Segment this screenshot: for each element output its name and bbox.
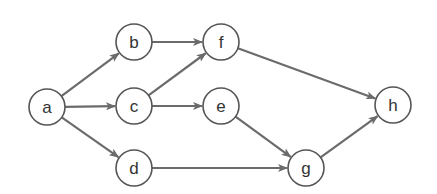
node-d: d [116,150,152,186]
node-c: c [116,88,152,124]
node-label: g [301,159,310,178]
edge-a-d [62,117,119,157]
node-b: b [116,24,152,60]
edge-e-g [236,117,291,157]
node-label: d [129,159,138,178]
node-a: a [29,89,65,125]
node-e: e [203,88,239,124]
edge-a-c [65,106,115,107]
directed-graph: abcdfegh [0,0,437,194]
edge-a-b [61,53,118,96]
node-f: f [203,24,239,60]
node-label: b [129,33,138,52]
node-h: h [375,87,411,123]
node-label: f [219,33,224,52]
node-label: a [42,98,52,117]
edge-c-f [148,53,205,95]
node-label: e [216,97,225,116]
node-label: h [388,96,397,115]
nodes-layer: abcdfegh [29,24,411,186]
edge-f-h [238,48,375,98]
edge-g-h [321,116,378,157]
node-g: g [288,150,324,186]
node-label: c [130,97,139,116]
